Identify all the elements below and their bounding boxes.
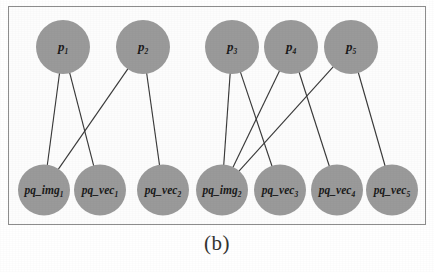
graph-node[interactable]: pq_vec1 <box>74 165 126 216</box>
graph-node[interactable]: pq_vec3 <box>254 165 306 216</box>
graph-edge <box>299 72 329 166</box>
graph-edge <box>70 72 94 166</box>
graph-edge <box>233 70 280 167</box>
graph-edge <box>47 73 59 165</box>
graph-node[interactable]: p5 <box>324 20 378 74</box>
graph-node[interactable]: pq_vec2 <box>137 165 189 216</box>
graph-node[interactable]: p1 <box>36 20 90 74</box>
graph-edge <box>58 68 128 169</box>
graph-edge <box>224 73 230 165</box>
bipartite-graph: p1p2p3p4p5pq_img1pq_vec1pq_vec2pq_img2pq… <box>0 0 434 228</box>
graph-edges-layer <box>47 66 385 171</box>
graph-node[interactable]: pq_img2 <box>196 165 248 216</box>
figure-caption: (b) <box>0 231 434 256</box>
graph-nodes-layer: p1p2p3p4p5pq_img1pq_vec1pq_vec2pq_img2pq… <box>18 20 418 215</box>
graph-node[interactable]: pq_img1 <box>18 165 70 216</box>
graph-node[interactable]: p3 <box>205 20 259 74</box>
graph-node[interactable]: p4 <box>264 20 318 74</box>
graph-node[interactable]: pq_vec4 <box>311 165 363 216</box>
graph-edge <box>147 73 160 165</box>
graph-node[interactable]: pq_vec5 <box>366 165 418 216</box>
graph-node[interactable]: p2 <box>116 20 170 74</box>
graph-edge <box>239 66 334 171</box>
graph-edge <box>358 72 385 166</box>
figure-root: p1p2p3p4p5pq_img1pq_vec1pq_vec2pq_img2pq… <box>0 0 434 272</box>
